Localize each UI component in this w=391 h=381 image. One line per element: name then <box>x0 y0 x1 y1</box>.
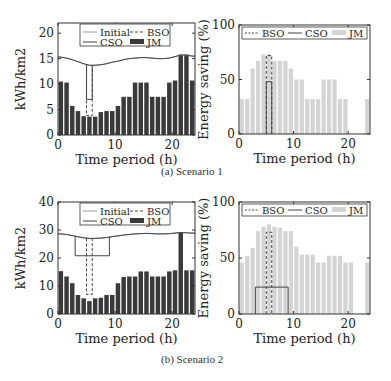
jm-bar <box>99 112 103 135</box>
y-tick-label: 100 <box>212 195 235 209</box>
jm-bar <box>294 247 298 314</box>
jm-bar <box>76 295 80 314</box>
jm-bar <box>127 276 131 314</box>
jm-bar <box>93 117 97 135</box>
y-tick-label: 0 <box>46 307 54 321</box>
jm-bar <box>150 276 154 314</box>
chart-s1-energy: 0102005101520Time period (h)kWh/km2Initi… <box>13 23 195 167</box>
jm-bar <box>261 227 265 314</box>
jm-bar <box>305 255 309 314</box>
jm-bar <box>127 97 131 135</box>
jm-bar <box>272 227 276 314</box>
legend-label-cso: CSO <box>305 28 328 39</box>
legend: InitialBSOCSOJM <box>80 203 170 227</box>
legend-label-jm: JM <box>348 28 363 39</box>
jm-bar <box>190 81 194 135</box>
jm-bar <box>104 295 108 314</box>
jm-bar <box>167 271 171 314</box>
jm-bar <box>321 262 325 314</box>
jm-bar <box>283 61 287 134</box>
x-axis-label: Time period (h) <box>75 331 177 346</box>
jm-bar <box>93 298 97 314</box>
jm-bar <box>261 54 265 134</box>
jm-bar <box>316 262 320 314</box>
jm-bar <box>110 111 114 135</box>
jm-bar <box>251 69 255 134</box>
jm-bar <box>289 231 293 314</box>
legend-label-jm: JM <box>348 205 363 216</box>
caption-scenario-1: (a) Scenario 1 <box>161 165 223 177</box>
y-tick-label: 20 <box>39 26 54 40</box>
jm-bar <box>99 298 103 314</box>
jm-bar <box>133 83 137 135</box>
jm-bar <box>179 55 183 135</box>
jm-bar <box>179 233 183 314</box>
jm-bar <box>116 283 120 314</box>
y-tick-label: 5 <box>46 103 54 117</box>
y-axis-label: Energy saving (%) <box>196 19 211 140</box>
legend-label-cso: CSO <box>100 37 123 48</box>
jm-bars <box>240 54 370 134</box>
jm-bar <box>240 99 244 134</box>
y-axis-label: Energy saving (%) <box>196 198 211 319</box>
jm-bar <box>121 97 125 135</box>
chart-s1-saving: 01020050100Time period (h)Energy saving … <box>196 18 370 166</box>
x-tick-label: 0 <box>235 137 243 151</box>
jm-bar <box>294 80 298 135</box>
y-axis-label: kWh/km2 <box>13 227 28 289</box>
legend-swatch-jm <box>130 39 144 44</box>
jm-bars <box>59 55 195 135</box>
x-tick-label: 10 <box>286 317 301 331</box>
jm-bar <box>144 83 148 135</box>
x-tick-label: 10 <box>107 138 122 152</box>
jm-bar <box>256 231 260 314</box>
x-tick-label: 0 <box>54 317 62 331</box>
x-axis-label: Time period (h) <box>253 151 355 166</box>
jm-bar <box>338 99 342 134</box>
jm-bar <box>184 55 188 135</box>
y-tick-label: 15 <box>39 52 54 66</box>
jm-bar <box>87 117 91 135</box>
y-tick-label: 20 <box>39 251 54 265</box>
jm-bar <box>81 116 85 135</box>
jm-bar <box>343 262 347 314</box>
jm-bar <box>144 271 148 314</box>
legend-label-bso: BSO <box>262 205 284 216</box>
jm-bar <box>64 83 68 135</box>
jm-bar <box>156 276 160 314</box>
jm-bar <box>245 99 249 134</box>
y-tick-label: 0 <box>46 128 54 142</box>
jm-bar <box>150 97 154 135</box>
jm-bars <box>59 233 195 314</box>
x-axis-label: Time period (h) <box>253 331 355 346</box>
jm-bar <box>245 256 249 314</box>
jm-bar <box>139 83 143 135</box>
y-tick-label: 50 <box>220 73 235 87</box>
chart-s2-energy: 01020010203040Time period (h)kWh/km2Init… <box>13 195 195 346</box>
jm-bar <box>133 276 137 314</box>
x-tick-label: 20 <box>341 137 356 151</box>
jm-bar <box>338 256 342 314</box>
jm-bar <box>316 99 320 134</box>
jm-bar <box>70 283 74 314</box>
jm-bar <box>327 80 331 135</box>
jm-bar <box>59 271 63 314</box>
legend-label-cso: CSO <box>100 216 123 227</box>
jm-bars <box>240 224 370 314</box>
jm-bar <box>278 228 282 314</box>
jm-bar <box>256 61 260 134</box>
jm-bar <box>70 106 74 135</box>
jm-bar <box>156 97 160 135</box>
legend-swatch-jm <box>332 207 346 212</box>
jm-bar <box>190 270 194 314</box>
y-tick-label: 0 <box>227 127 235 141</box>
jm-bar <box>173 81 177 135</box>
jm-bar <box>343 99 347 134</box>
jm-bar <box>283 231 287 314</box>
line-bso <box>87 238 93 294</box>
x-tick-label: 0 <box>54 138 62 152</box>
legend: BSOCSOJM <box>242 27 367 39</box>
line-cso <box>58 55 195 65</box>
legend-label-cso: CSO <box>305 205 328 216</box>
jm-bar <box>121 277 125 314</box>
